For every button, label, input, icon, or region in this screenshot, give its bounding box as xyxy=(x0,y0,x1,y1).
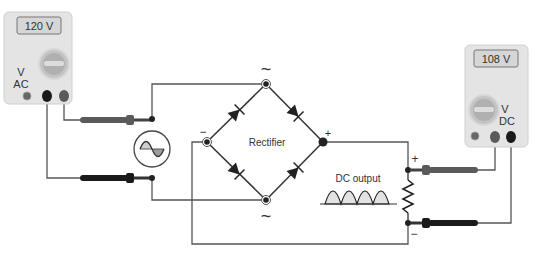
ac-probe-black[interactable] xyxy=(80,173,150,183)
ac-voltmeter: 120 V V AC xyxy=(4,12,72,104)
ac-meter-mode-ac: AC xyxy=(13,78,28,90)
load-plus-label: + xyxy=(411,152,418,166)
ac-input-symbol-top: ~ xyxy=(261,59,272,79)
ac-meter-mode-v: V xyxy=(17,66,25,78)
dc-probe-red[interactable] xyxy=(410,165,478,175)
ac-meter-v-jack[interactable] xyxy=(59,90,69,102)
load-minus-label: − xyxy=(410,227,417,241)
dc-voltmeter: 108 V V DC xyxy=(465,45,528,147)
ac-probe-red[interactable] xyxy=(80,115,150,125)
node xyxy=(149,116,155,122)
load-resistor xyxy=(403,168,413,223)
ac-input-symbol-bottom: ~ xyxy=(261,206,272,226)
dc-meter-mode-dc: DC xyxy=(499,115,515,127)
dc-output-label: DC output xyxy=(335,173,380,184)
ac-meter-com-jack[interactable] xyxy=(42,90,52,102)
circuit-diagram: 120 V V AC xyxy=(0,0,535,260)
dc-meter-com-jack[interactable] xyxy=(506,131,516,143)
dc-meter-mode-v: V xyxy=(501,103,509,115)
node xyxy=(149,175,155,181)
rectifier-label: Rectifier xyxy=(249,137,286,148)
bridge-plus-label: + xyxy=(325,127,331,139)
ac-meter-dial[interactable] xyxy=(39,49,69,79)
dc-meter-screw-icon xyxy=(471,132,479,140)
ac-source xyxy=(134,131,170,167)
ac-meter-reading: 120 V xyxy=(25,20,54,32)
ac-meter-screw-icon xyxy=(23,92,31,100)
dc-output-waveform xyxy=(320,191,397,204)
dc-probe-black[interactable] xyxy=(410,218,478,228)
dc-meter-dial[interactable] xyxy=(469,95,499,125)
dc-meter-v-jack[interactable] xyxy=(490,131,500,143)
bridge-minus-label: − xyxy=(199,125,206,139)
dc-meter-reading: 108 V xyxy=(482,53,511,65)
